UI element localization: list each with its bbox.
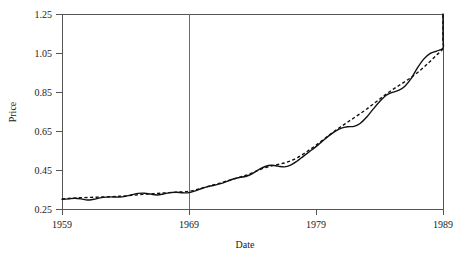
price-vs-date-line-chart: 1.25 1.05 0.85 0.65 0.45 0.25 1959 1969 … bbox=[0, 0, 463, 256]
series-trend-dashed bbox=[62, 14, 443, 198]
chart-figure: 1.25 1.05 0.85 0.65 0.45 0.25 1959 1969 … bbox=[0, 0, 463, 256]
x-axis-ticks bbox=[62, 209, 443, 215]
x-tick-label-2: 1979 bbox=[306, 219, 326, 230]
y-tick-label-0: 0.25 bbox=[35, 204, 53, 215]
y-tick-label-4: 1.05 bbox=[35, 48, 53, 59]
y-axis-tick-labels: 1.25 1.05 0.85 0.65 0.45 0.25 bbox=[35, 9, 53, 215]
y-tick-label-3: 0.85 bbox=[35, 87, 53, 98]
x-tick-label-0: 1959 bbox=[52, 219, 72, 230]
plot-frame bbox=[62, 14, 443, 209]
x-axis-tick-labels: 1959 1969 1979 1989 bbox=[52, 219, 453, 230]
y-tick-label-2: 0.65 bbox=[35, 126, 53, 137]
x-tick-label-1: 1969 bbox=[179, 219, 199, 230]
x-axis-title: Date bbox=[236, 239, 255, 250]
x-tick-label-3: 1989 bbox=[433, 219, 453, 230]
y-tick-label-1: 0.45 bbox=[35, 165, 53, 176]
y-tick-label-5: 1.25 bbox=[35, 9, 53, 20]
y-axis-title: Price bbox=[7, 101, 18, 122]
y-axis-ticks bbox=[56, 14, 62, 209]
series-price-solid bbox=[62, 14, 443, 200]
